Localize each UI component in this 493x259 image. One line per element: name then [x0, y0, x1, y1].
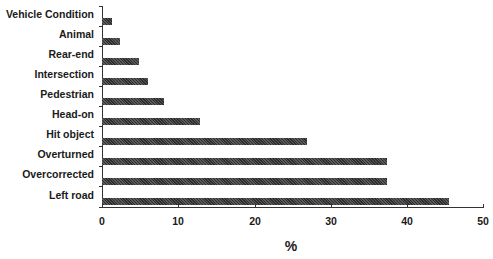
y-tick: [99, 6, 103, 7]
category-label: Intersection: [34, 68, 94, 80]
category-label: Hit object: [46, 128, 94, 140]
bar-left-road: [102, 198, 449, 205]
category-label: Head-on: [52, 108, 94, 120]
category-label: Pedestrian: [40, 88, 94, 100]
category-label: Overcorrected: [22, 168, 94, 180]
y-tick: [99, 146, 103, 147]
y-tick: [99, 126, 103, 127]
horizontal-bar-chart: Vehicle Condition Animal Rear-end Inters…: [0, 0, 493, 259]
x-tick-label: 10: [172, 215, 184, 227]
y-tick: [99, 186, 103, 187]
x-tick: [331, 204, 332, 208]
y-tick: [99, 46, 103, 47]
y-tick: [99, 26, 103, 27]
bar-vehicle-condition: [102, 18, 112, 25]
bar-rear-end: [102, 58, 139, 65]
bar-overturned: [102, 158, 387, 165]
x-tick: [255, 204, 256, 208]
y-tick: [99, 66, 103, 67]
x-tick: [102, 204, 103, 208]
bar-hit-object: [102, 138, 307, 145]
category-label: Animal: [59, 28, 94, 40]
x-tick-label: 0: [99, 215, 105, 227]
x-axis: [102, 207, 483, 208]
x-tick-label: 40: [401, 215, 413, 227]
y-tick: [99, 106, 103, 107]
bar-overcorrected: [102, 178, 387, 185]
y-tick: [99, 86, 103, 87]
x-tick-label: 50: [477, 215, 489, 227]
x-tick: [178, 204, 179, 208]
category-label: Overturned: [37, 148, 94, 160]
bar-animal: [102, 38, 120, 45]
x-tick-label: 30: [325, 215, 337, 227]
x-axis-title: %: [285, 238, 297, 254]
category-label: Vehicle Condition: [6, 8, 94, 20]
x-tick-label: 20: [249, 215, 261, 227]
x-tick: [407, 204, 408, 208]
bar-intersection: [102, 78, 148, 85]
category-label: Rear-end: [48, 48, 94, 60]
x-tick: [483, 204, 484, 208]
category-label: Left road: [49, 189, 94, 201]
y-tick: [99, 166, 103, 167]
bar-pedestrian: [102, 98, 164, 105]
bar-head-on: [102, 118, 200, 125]
